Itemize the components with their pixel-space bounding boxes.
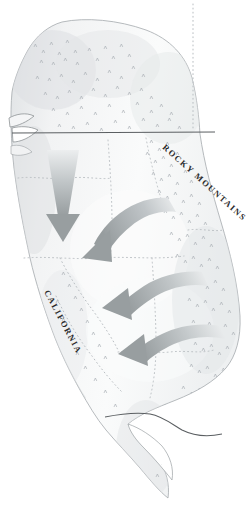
map-canvas: ROCKY MOUNTAINS CALIFORNIA (0, 0, 250, 510)
landmass-group (8, 20, 240, 500)
map-figure: ROCKY MOUNTAINS CALIFORNIA (0, 0, 250, 510)
